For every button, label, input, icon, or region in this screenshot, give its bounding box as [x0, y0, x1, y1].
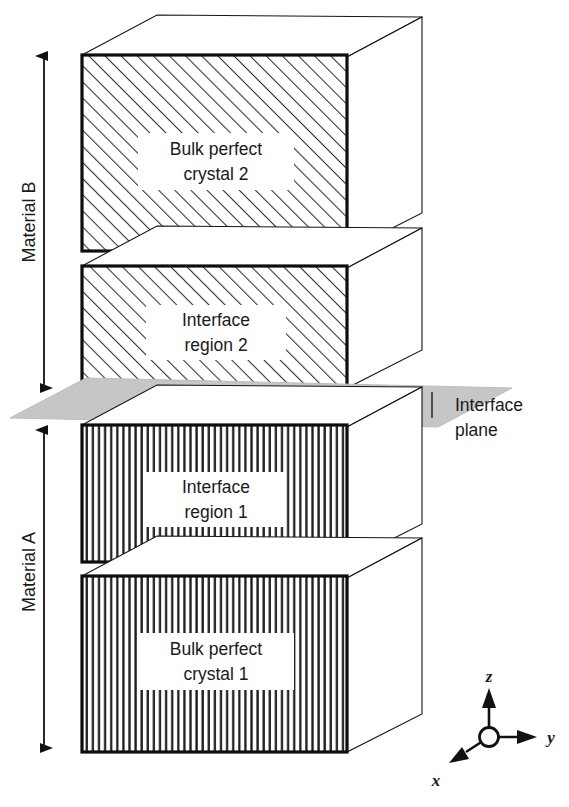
- axis-z-arrowhead: [482, 688, 496, 708]
- axis-y-arrowhead: [517, 730, 537, 744]
- block-bulk-perfect-crystal-1: Bulk perfect crystal 1: [82, 536, 422, 752]
- axis-origin-circle: [480, 728, 499, 747]
- block-label-line1: Bulk perfect: [170, 139, 263, 159]
- material-a-label: Material A: [19, 532, 39, 612]
- axis-triad: z y x: [431, 667, 555, 790]
- block-label-line2: region 2: [184, 335, 247, 355]
- interface-plane-label-line1: Interface: [455, 395, 523, 415]
- material-bracket-b: Material B: [19, 56, 44, 388]
- block-label-line1: Bulk perfect: [170, 639, 263, 659]
- block-right-face: [347, 17, 422, 251]
- material-bracket-a: Material A: [19, 430, 44, 748]
- block-label-line2: crystal 1: [183, 664, 248, 684]
- block-label-line1: Interface: [182, 477, 250, 497]
- material-b-label: Material B: [19, 181, 39, 262]
- block-interface-region-2: Interface region 2: [82, 226, 422, 388]
- block-label-line1: Interface: [182, 310, 250, 330]
- axis-x-arrowhead: [449, 747, 469, 763]
- axis-y-label: y: [545, 728, 555, 747]
- block-bulk-perfect-crystal-2: Bulk perfect crystal 2: [82, 15, 422, 251]
- interface-plane-label-line2: plane: [455, 420, 498, 440]
- axis-z-label: z: [485, 667, 493, 686]
- block-interface-region-1: Interface region 1: [82, 385, 422, 562]
- block-label-line2: region 1: [184, 502, 247, 522]
- axis-x-label: x: [431, 771, 441, 790]
- interface-structure-diagram: Bulk perfect crystal 2 Interface region …: [0, 0, 569, 807]
- block-label-line2: crystal 2: [183, 164, 248, 184]
